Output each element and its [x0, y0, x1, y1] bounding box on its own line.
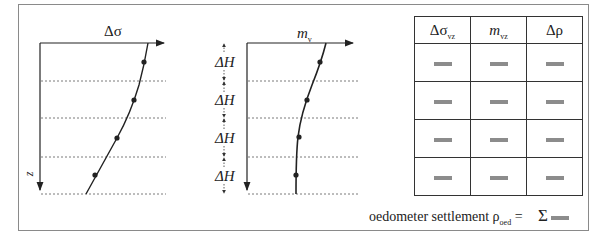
stress-axis-label: Δσ	[104, 24, 122, 39]
depth-axis-label: z	[23, 172, 35, 177]
cell-placeholder	[471, 120, 527, 158]
settlement-summary: oedometer settlement ρoed = Σ	[369, 206, 569, 226]
stress-plot	[40, 43, 166, 194]
cell-placeholder	[415, 82, 471, 120]
mv-plot	[224, 43, 358, 194]
blank-value-bar	[546, 100, 564, 104]
blank-value-bar	[490, 62, 508, 66]
sigma-symbol: Σ	[538, 206, 548, 225]
table-row	[415, 120, 583, 158]
blank-value-bar	[434, 176, 452, 180]
blank-total-bar	[551, 216, 569, 220]
layer-label-4: ΔH	[215, 169, 235, 184]
blank-value-bar	[546, 176, 564, 180]
blank-value-bar	[490, 138, 508, 142]
cell-placeholder	[415, 120, 471, 158]
equals-sign: =	[515, 209, 523, 224]
blank-value-bar	[490, 100, 508, 104]
layer-boundaries	[41, 81, 166, 194]
blank-value-bar	[434, 100, 452, 104]
layer-label-2: ΔH	[215, 93, 235, 108]
header-mv: mvz	[471, 17, 527, 44]
cell-placeholder	[527, 120, 583, 158]
summary-sub: oed	[500, 218, 512, 227]
table-row	[415, 82, 583, 120]
blank-value-bar	[546, 138, 564, 142]
layer-boundaries	[248, 81, 358, 194]
mv-axis-label: mv	[297, 26, 312, 41]
cell-placeholder	[471, 82, 527, 120]
cell-placeholder	[527, 158, 583, 196]
table-header-row: Δσvz mvz Δρ	[415, 17, 583, 44]
layer-label-3: ΔH	[215, 131, 235, 146]
blank-value-bar	[546, 62, 564, 66]
cell-placeholder	[415, 44, 471, 82]
settlement-table: Δσvz mvz Δρ	[414, 16, 583, 196]
mv-sub: v	[308, 35, 312, 44]
cell-placeholder	[527, 82, 583, 120]
blank-value-bar	[434, 138, 452, 142]
cell-placeholder	[415, 158, 471, 196]
cell-placeholder	[471, 44, 527, 82]
table-row	[415, 44, 583, 82]
layer-label-1: ΔH	[215, 55, 235, 70]
summary-label: oedometer settlement ρ	[369, 209, 500, 224]
blank-value-bar	[434, 62, 452, 66]
table-row	[415, 158, 583, 196]
blank-value-bar	[490, 176, 508, 180]
header-settlement: Δρ	[527, 17, 583, 44]
cell-placeholder	[471, 158, 527, 196]
mv-main: m	[297, 25, 308, 41]
cell-placeholder	[527, 44, 583, 82]
header-stress: Δσvz	[415, 17, 471, 44]
